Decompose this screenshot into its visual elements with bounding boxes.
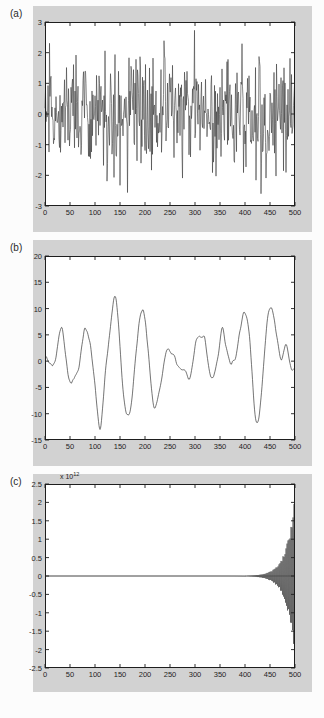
ytick-label: 1	[13, 79, 42, 88]
xtick-label: 250	[164, 208, 177, 217]
ytick-label: 0	[13, 572, 42, 581]
xtick-label: 500	[289, 442, 302, 451]
y-axis-exponent-c: x 1012	[60, 471, 79, 480]
ytick-label: 1.5	[13, 516, 42, 525]
ytick-label: -10	[13, 409, 42, 418]
ytick-label: 10	[13, 304, 42, 313]
axes-svg-b	[45, 256, 295, 440]
ytick-label: -0.5	[13, 590, 42, 599]
xtick-label: 500	[289, 208, 302, 217]
ytick-label: 0	[13, 357, 42, 366]
xtick-label: 150	[114, 670, 127, 679]
xtick-label: 300	[189, 442, 202, 451]
xtick-label: 200	[139, 670, 152, 679]
axes-svg-a	[45, 22, 295, 206]
xtick-label: 500	[289, 670, 302, 679]
xtick-label: 150	[114, 208, 127, 217]
ytick-label: -15	[13, 436, 42, 445]
ytick-label: 5	[13, 330, 42, 339]
xtick-label: 0	[43, 208, 47, 217]
ytick-label: 0	[13, 110, 42, 119]
ytick-label: -3	[13, 202, 42, 211]
xtick-label: 350	[214, 208, 227, 217]
axes-svg-c	[45, 484, 295, 668]
xtick-label: 300	[189, 208, 202, 217]
plot-area-a	[45, 22, 295, 206]
ytick-label: 2.5	[13, 480, 42, 489]
ytick-label: 2	[13, 48, 42, 57]
ytick-label: -2	[13, 645, 42, 654]
xtick-label: 100	[89, 442, 102, 451]
xtick-label: 300	[189, 670, 202, 679]
xtick-label: 200	[139, 442, 152, 451]
series-line	[45, 30, 295, 193]
ytick-label: 2	[13, 498, 42, 507]
ytick-label: 1	[13, 535, 42, 544]
xtick-label: 400	[239, 208, 252, 217]
xtick-label: 450	[264, 670, 277, 679]
xtick-label: 0	[43, 442, 47, 451]
xtick-label: 50	[66, 442, 74, 451]
xtick-label: 400	[239, 442, 252, 451]
ytick-label: 3	[13, 18, 42, 27]
ytick-label: -1	[13, 140, 42, 149]
ytick-label: -2	[13, 171, 42, 180]
exponent-power: 12	[73, 471, 79, 477]
xtick-label: 200	[139, 208, 152, 217]
ytick-label: 20	[13, 252, 42, 261]
xtick-label: 100	[89, 670, 102, 679]
xtick-label: 400	[239, 670, 252, 679]
series-line	[45, 504, 295, 651]
xtick-label: 0	[43, 670, 47, 679]
exponent-mantissa: x 10	[60, 473, 73, 480]
xtick-label: 250	[164, 670, 177, 679]
xtick-label: 450	[264, 208, 277, 217]
series-line	[45, 296, 295, 429]
xtick-label: 350	[214, 670, 227, 679]
ytick-label: -1.5	[13, 627, 42, 636]
plot-area-c	[45, 484, 295, 668]
xtick-label: 50	[66, 208, 74, 217]
xtick-label: 450	[264, 442, 277, 451]
xtick-label: 150	[114, 442, 127, 451]
xtick-label: 50	[66, 670, 74, 679]
ytick-label: 15	[13, 278, 42, 287]
ytick-label: -2.5	[13, 664, 42, 673]
ytick-label: -5	[13, 383, 42, 392]
xtick-label: 250	[164, 442, 177, 451]
plot-area-b	[45, 256, 295, 440]
ytick-label: 0.5	[13, 553, 42, 562]
ytick-label: -1	[13, 608, 42, 617]
figure-container: (a) -3-2-10123 0501001502002503003504004…	[0, 0, 324, 718]
xtick-label: 350	[214, 442, 227, 451]
xtick-label: 100	[89, 208, 102, 217]
